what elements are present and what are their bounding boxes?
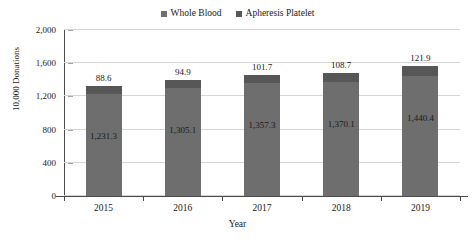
- x-axis-tick-label: 2019: [411, 203, 430, 213]
- legend-swatch-whole-blood: [161, 11, 167, 17]
- bar-value-label-whole-blood: 1,305.1: [169, 126, 196, 135]
- legend-item-apheresis-platelet: Apheresis Platelet: [236, 9, 315, 19]
- x-axis-tick-mark: [64, 196, 65, 201]
- plot-area: 88.61,231.394.91,305.1101.71,357.3108.71…: [64, 30, 460, 196]
- bar-segment-whole-blood[interactable]: 1,440.4: [402, 76, 438, 196]
- x-axis-title: Year: [0, 219, 475, 229]
- bar-value-label-apheresis-platelet: 88.6: [96, 74, 112, 83]
- x-axis-line: [56, 196, 468, 197]
- x-axis-tick-label: 2016: [173, 203, 192, 213]
- bar-segment-apheresis-platelet[interactable]: 88.6: [86, 86, 122, 93]
- y-axis-tick-label: 2,000: [36, 25, 56, 35]
- bar-segment-whole-blood[interactable]: 1,305.1: [165, 88, 201, 196]
- bar-value-label-apheresis-platelet: 101.7: [252, 63, 272, 72]
- x-axis-tick-label: 2015: [94, 203, 113, 213]
- y-axis-title: 10,000 Donations: [11, 19, 21, 139]
- legend-item-whole-blood: Whole Blood: [161, 9, 222, 19]
- bar-value-label-whole-blood: 1,370.1: [328, 120, 355, 129]
- bar-value-label-whole-blood: 1,440.4: [407, 114, 434, 123]
- y-axis-tick-label: 1,200: [36, 91, 56, 101]
- bar-value-label-apheresis-platelet: 121.9: [410, 54, 430, 63]
- legend-label-apheresis-platelet: Apheresis Platelet: [246, 9, 315, 19]
- gridline: [64, 29, 460, 30]
- bar-group[interactable]: 121.91,440.4: [402, 66, 438, 196]
- bar-segment-apheresis-platelet[interactable]: 108.7: [323, 73, 359, 82]
- bar-group[interactable]: 88.61,231.3: [86, 86, 122, 196]
- x-axis-tick-mark: [143, 196, 144, 201]
- bar-segment-whole-blood[interactable]: 1,357.3: [244, 83, 280, 196]
- bar-value-label-whole-blood: 1,231.3: [90, 132, 117, 141]
- legend-label-whole-blood: Whole Blood: [171, 9, 222, 19]
- donations-stacked-bar-chart: Whole Blood Apheresis Platelet 04008001,…: [0, 0, 475, 242]
- y-axis-tick-label: 1,600: [36, 58, 56, 68]
- bar-group[interactable]: 108.71,370.1: [323, 73, 359, 196]
- x-axis-tick-mark: [222, 196, 223, 201]
- x-axis-tick-mark: [302, 196, 303, 201]
- x-axis-tick-mark: [460, 196, 461, 201]
- bar-segment-apheresis-platelet[interactable]: 121.9: [402, 66, 438, 76]
- y-axis-tick-label: 400: [43, 158, 57, 168]
- bar-value-label-whole-blood: 1,357.3: [249, 121, 276, 130]
- bar-value-label-apheresis-platelet: 94.9: [175, 68, 191, 77]
- bar-value-label-apheresis-platelet: 108.7: [331, 61, 351, 70]
- bar-segment-apheresis-platelet[interactable]: 94.9: [165, 80, 201, 88]
- legend-swatch-apheresis-platelet: [236, 11, 242, 17]
- x-axis-tick-label: 2017: [253, 203, 272, 213]
- y-axis-tick-label: 800: [43, 125, 57, 135]
- bar-segment-whole-blood[interactable]: 1,231.3: [86, 94, 122, 196]
- x-axis-tick-mark: [381, 196, 382, 201]
- x-axis-tick-label: 2018: [332, 203, 351, 213]
- bar-group[interactable]: 101.71,357.3: [244, 75, 280, 196]
- bar-group[interactable]: 94.91,305.1: [165, 80, 201, 196]
- bar-segment-apheresis-platelet[interactable]: 101.7: [244, 75, 280, 83]
- bar-segment-whole-blood[interactable]: 1,370.1: [323, 82, 359, 196]
- chart-legend: Whole Blood Apheresis Platelet: [0, 9, 475, 19]
